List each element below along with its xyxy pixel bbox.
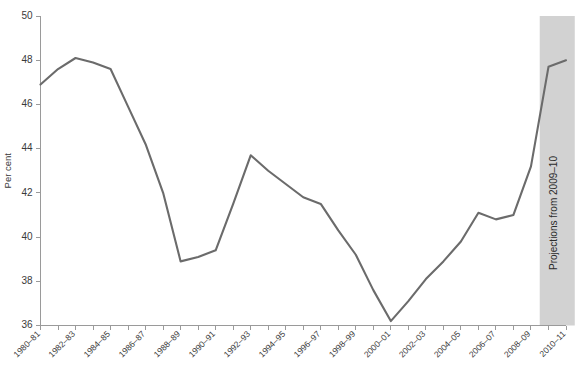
- y-tick-label: 38: [21, 275, 33, 286]
- y-axis-title: Per cent: [2, 153, 13, 189]
- y-tick-label: 42: [21, 187, 33, 198]
- y-tick-label: 48: [21, 54, 33, 65]
- projection-annotation-label: Projections from 2009–10: [548, 156, 559, 270]
- y-tick-label: 44: [21, 142, 33, 153]
- chart-background: [0, 0, 577, 380]
- y-tick-label: 46: [21, 98, 33, 109]
- projection-label-text: Projections from 2009–10: [548, 156, 559, 270]
- y-tick-label: 36: [21, 319, 33, 330]
- y-tick-label: 50: [21, 10, 33, 21]
- chart-container: 3638404244464850 1980–811982–831984–8519…: [0, 0, 577, 380]
- y-tick-label: 40: [21, 231, 33, 242]
- line-chart: 3638404244464850 1980–811982–831984–8519…: [0, 0, 577, 380]
- y-axis-title-text: Per cent: [2, 153, 13, 189]
